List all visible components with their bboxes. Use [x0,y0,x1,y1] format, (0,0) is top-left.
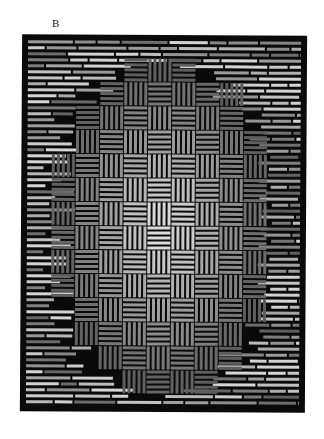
figure-label: B [52,17,59,29]
artwork-frame [20,34,307,413]
artwork-pattern [20,34,307,413]
